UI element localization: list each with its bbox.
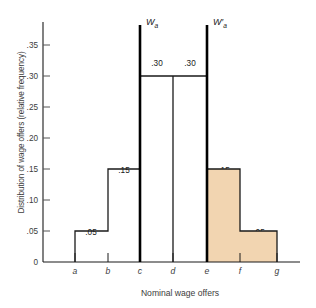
chart-plot-area [0,0,316,308]
bar-ef-fill [207,169,240,262]
wage-offer-distribution-chart: Distribution of wage offers (relative fr… [0,0,316,308]
bar-fg-fill [240,231,277,262]
